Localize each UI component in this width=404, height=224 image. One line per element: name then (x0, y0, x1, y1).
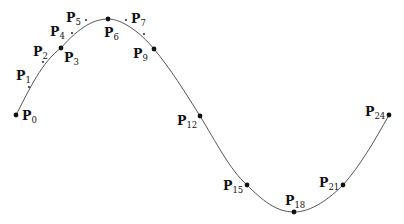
point-p24-dot (387, 113, 392, 118)
point-p5-dot (85, 19, 87, 21)
point-p7-dot (125, 19, 127, 21)
point-p8-dot (143, 33, 145, 35)
point-p3-label: P3 (64, 50, 79, 67)
point-p24-label: P24 (365, 104, 385, 121)
point-p9-dot (152, 47, 157, 52)
point-p12-label: P12 (177, 113, 197, 130)
point-p18-dot (292, 210, 297, 215)
point-p5-label: P5 (66, 10, 81, 27)
point-p12-dot (198, 114, 203, 119)
point-p21-label: P21 (319, 175, 339, 192)
point-p21-dot (341, 183, 346, 188)
point-p18-label: P18 (285, 193, 305, 210)
point-p2-label: P2 (33, 44, 48, 61)
point-p6-label: P6 (104, 25, 119, 42)
sine-curve-diagram: P0P1P2P3P4P5P6P7P9P12P15P18P21P24 (0, 0, 404, 224)
point-p6-dot (106, 17, 111, 22)
point-p7-label: P7 (131, 11, 146, 28)
point-p9-label: P9 (133, 46, 148, 63)
point-p15-label: P15 (223, 178, 243, 195)
point-labels: P0P1P2P3P4P5P6P7P9P12P15P18P21P24 (16, 10, 385, 210)
point-p0-label: P0 (22, 108, 37, 125)
point-p3-dot (59, 46, 64, 51)
point-p2-dot (42, 61, 44, 63)
point-p0-dot (14, 113, 19, 118)
point-p15-dot (245, 183, 250, 188)
point-p1-dot (28, 86, 30, 88)
point-p4-label: P4 (50, 24, 65, 41)
point-p1-label: P1 (16, 68, 31, 85)
point-p4-dot (71, 32, 73, 34)
